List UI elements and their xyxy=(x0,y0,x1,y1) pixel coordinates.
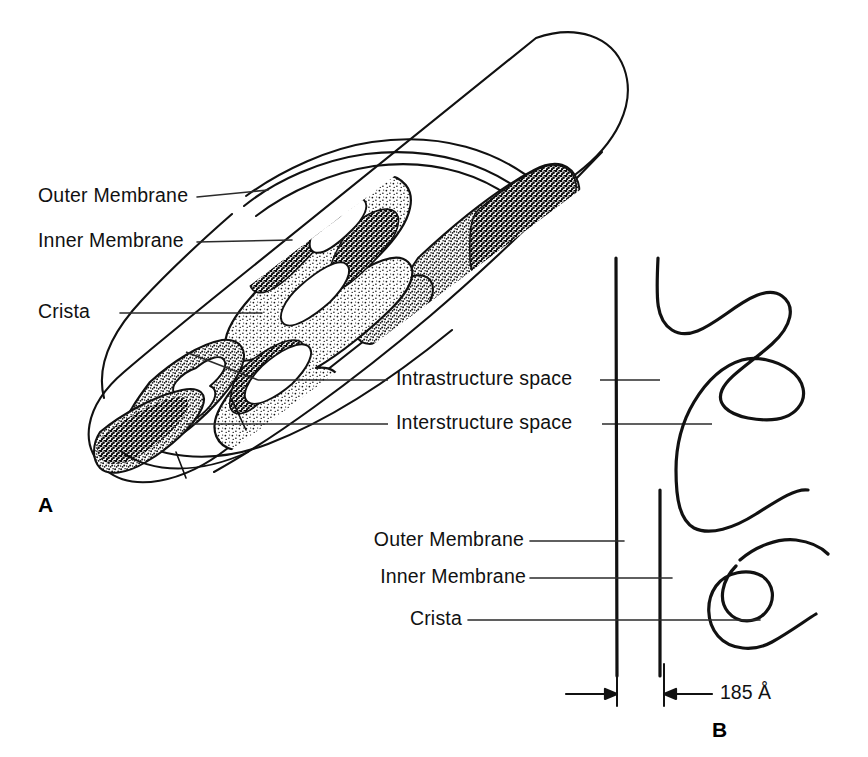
label-outer-membrane-b: Outer Membrane xyxy=(318,530,524,550)
label-inner-membrane-b: Inner Membrane xyxy=(318,567,526,587)
panel-letter-b: B xyxy=(712,719,727,740)
dim-arrow-right-head xyxy=(664,689,676,699)
label-crista-b: Crista xyxy=(318,609,462,629)
label-outer-membrane-a: Outer Membrane xyxy=(38,186,188,206)
label-interstructure-space: Interstructure space xyxy=(396,413,572,433)
label-inner-membrane-a: Inner Membrane xyxy=(38,231,184,251)
leader-inner-membrane xyxy=(197,240,292,242)
panel-letter-a: A xyxy=(38,494,53,515)
label-intrastructure-space: Intrastructure space xyxy=(396,369,572,389)
label-crista-a: Crista xyxy=(38,302,90,322)
pb-inner-membrane-profile xyxy=(657,258,808,531)
panel-b-artwork xyxy=(468,258,828,706)
dimension-185a xyxy=(566,664,712,706)
mitochondrion-figure: Outer Membrane Inner Membrane Crista Int… xyxy=(0,0,868,757)
pb-crista-upper-arm xyxy=(740,540,828,560)
dim-arrow-left-head xyxy=(605,689,617,699)
dimension-label-185-angstrom: 185 Å xyxy=(720,683,771,703)
pb-outer-membrane-line xyxy=(616,258,617,676)
pb-crista-fold xyxy=(709,566,816,648)
